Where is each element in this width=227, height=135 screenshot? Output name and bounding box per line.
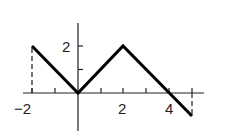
x-label-neg2: −2 (14, 100, 31, 117)
y-ticks (78, 46, 83, 70)
x-label-2: 2 (118, 100, 126, 117)
graph: −2 2 4 2 (0, 0, 227, 135)
x-label-4: 4 (165, 100, 173, 117)
y-label-2: 2 (62, 38, 70, 55)
